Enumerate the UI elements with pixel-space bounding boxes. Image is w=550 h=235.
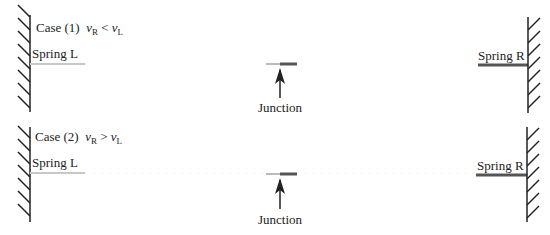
junction-arrow-icon — [275, 178, 285, 209]
spring-right-label: Spring R — [477, 159, 524, 173]
left-wall — [18, 5, 30, 112]
case-1-title: Case (1) vR < vL — [36, 21, 123, 39]
spring-left-label: Spring L — [32, 47, 78, 61]
right-wall — [528, 17, 540, 113]
comparison-operator: < — [101, 20, 108, 35]
case-2-title: Case (2) vR > vL — [35, 130, 122, 148]
junction-label: Junction — [258, 101, 302, 115]
spring-right-label: Spring R — [478, 49, 525, 63]
case-label: Case (2) — [35, 129, 79, 144]
junction-arrow-icon — [275, 68, 285, 98]
velocity-subscript: L — [118, 27, 124, 37]
left-wall — [18, 126, 30, 222]
spring-left-label: Spring L — [32, 156, 78, 170]
junction-label: Junction — [258, 213, 302, 227]
velocity-subscript: R — [91, 136, 97, 146]
right-wall — [527, 127, 539, 222]
velocity-subscript: R — [92, 27, 98, 37]
velocity-subscript: L — [117, 136, 123, 146]
comparison-operator: > — [100, 129, 107, 144]
case-label: Case (1) — [36, 20, 80, 35]
